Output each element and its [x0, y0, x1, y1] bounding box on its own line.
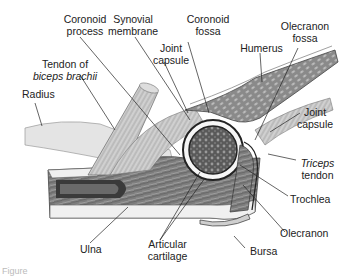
label-olecranon-fossa: Olecranon fossa — [270, 20, 340, 44]
label-line: Tendon of — [15, 58, 115, 70]
label-line: membrane — [98, 25, 168, 37]
label-olecranon: Olecranon — [280, 227, 328, 239]
label-triceps-tendon: Triceps tendon — [295, 157, 340, 181]
label-trochlea: Trochlea — [290, 193, 330, 205]
label-line: capsule — [146, 54, 196, 66]
label-line: Articular — [140, 238, 195, 250]
label-joint-capsule-top: Joint capsule — [146, 42, 196, 66]
label-line: Coronoid — [178, 13, 238, 25]
label-line: Olecranon — [270, 20, 340, 32]
label-coronoid-fossa: Coronoid fossa — [178, 13, 238, 37]
label-tendon-biceps: Tendon of biceps brachii — [15, 58, 115, 82]
figure-caption: Figure — [2, 266, 28, 276]
label-synovial-membrane: Synovial membrane — [98, 13, 168, 37]
label-line: capsule — [290, 118, 340, 130]
label-line: cartilage — [140, 250, 195, 262]
label-humerus: Humerus — [234, 42, 289, 54]
label-italic: biceps brachii — [33, 70, 97, 82]
label-articular-cartilage: Articular cartilage — [140, 238, 195, 262]
label-line: Triceps — [295, 157, 340, 169]
label-bursa: Bursa — [250, 245, 277, 257]
label-radius: Radius — [22, 88, 55, 100]
label-line: Joint — [146, 42, 196, 54]
label-line: biceps brachii — [15, 70, 115, 82]
label-joint-capsule-right: Joint capsule — [290, 106, 340, 130]
label-line: tendon — [295, 169, 340, 181]
label-line: fossa — [178, 25, 238, 37]
trochlea-shape — [189, 126, 237, 174]
label-line: Synovial — [98, 13, 168, 25]
label-line: Joint — [290, 106, 340, 118]
label-italic: Triceps — [301, 157, 335, 169]
label-ulna: Ulna — [80, 243, 102, 255]
